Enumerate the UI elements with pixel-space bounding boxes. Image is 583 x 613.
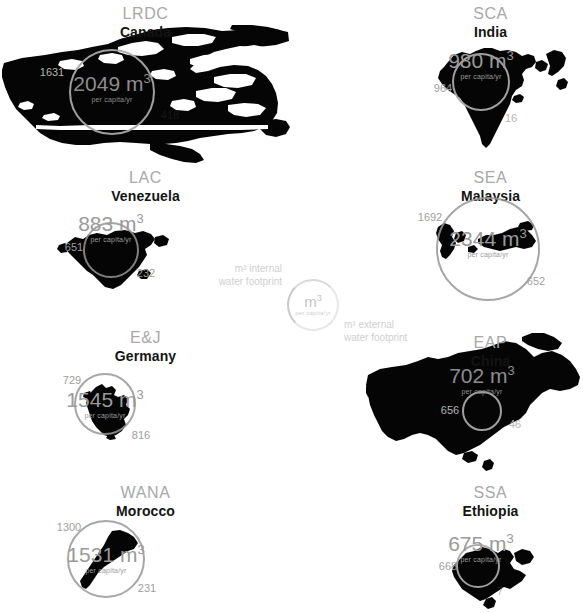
total-unit-sup-ethiopia: 3 xyxy=(507,531,514,546)
total-unit-sup-germany: 3 xyxy=(136,387,143,402)
panel-canada: LRDC Canada 2049 m3 per capita/yr 1631 4… xyxy=(0,0,291,165)
internal-value-canada: 1631 xyxy=(40,66,64,78)
bubble-ethiopia xyxy=(456,544,500,588)
internal-value-malaysia: 1692 xyxy=(418,211,442,223)
region-code-india: SCA xyxy=(398,4,583,23)
panel-malaysia: SEA Malaysia 2344 m3 per capita/yr 1692 … xyxy=(398,165,583,305)
external-value-morocco: 231 xyxy=(138,582,156,594)
region-code-venezuela: LAC xyxy=(0,168,291,187)
region-code-morocco: WANA xyxy=(0,483,291,502)
legend: m3 per capita/yr m³ internal water footp… xyxy=(196,262,386,348)
region-code-canada: LRDC xyxy=(0,4,291,23)
panel-india: SCA India 980 m3 per capita/yr 964 16 xyxy=(398,0,583,165)
bubble-venezuela xyxy=(83,222,139,278)
bubble-germany xyxy=(74,373,136,435)
external-value-ethiopia: 7 xyxy=(497,585,503,597)
internal-value-ethiopia: 668 xyxy=(439,560,457,572)
country-name-morocco: Morocco xyxy=(0,502,291,520)
legend-external-label: m³ external water footprint xyxy=(344,318,439,344)
country-name-venezuela: Venezuela xyxy=(0,187,291,205)
external-value-germany: 816 xyxy=(132,429,150,441)
bubble-india xyxy=(452,53,510,111)
total-unit-sup-venezuela: 3 xyxy=(137,211,144,226)
panel-morocco: WANA Morocco 1531 m3 per capita/yr 1300 … xyxy=(0,480,291,613)
legend-per-capita-label: per capita/yr xyxy=(295,310,331,316)
internal-value-venezuela: 651 xyxy=(65,241,83,253)
internal-value-china: 656 xyxy=(441,404,459,416)
bubble-malaysia xyxy=(436,197,540,301)
external-value-venezuela: 232 xyxy=(137,267,155,279)
country-name-india: India xyxy=(398,23,583,41)
region-code-ethiopia: SSA xyxy=(398,483,583,502)
country-name-ethiopia: Ethiopia xyxy=(398,502,583,520)
bubble-canada xyxy=(69,49,155,135)
region-code-malaysia: SEA xyxy=(398,168,583,187)
internal-value-india: 964 xyxy=(434,82,452,94)
legend-unit: m xyxy=(304,293,317,310)
bubble-china xyxy=(462,391,502,431)
legend-center-value: m3 per capita/yr xyxy=(295,294,331,316)
external-value-india: 16 xyxy=(505,112,517,124)
external-value-malaysia: 652 xyxy=(527,275,545,287)
country-name-germany: Germany xyxy=(0,347,291,365)
panel-china: EAP China 702 m3 per capita/yr 656 46 xyxy=(398,325,583,475)
legend-unit-sup: 3 xyxy=(317,293,322,303)
internal-value-morocco: 1300 xyxy=(57,521,81,533)
external-value-china: 46 xyxy=(509,418,521,430)
total-unit-sup-india: 3 xyxy=(507,48,514,63)
panel-ethiopia: SSA Ethiopia 675 m3 per capita/yr 668 7 xyxy=(398,480,583,613)
country-name-canada: Canada xyxy=(0,23,291,41)
internal-value-germany: 729 xyxy=(63,374,81,386)
external-value-canada: 418 xyxy=(161,109,179,121)
legend-internal-label: m³ internal water footprint xyxy=(196,262,282,288)
country-name-china: China xyxy=(398,352,583,370)
